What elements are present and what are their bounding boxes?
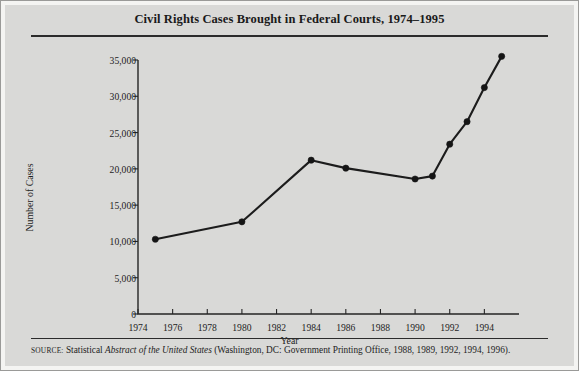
- y-tick-label: 20,000: [110, 163, 136, 174]
- y-tick-label: 15,000: [110, 200, 136, 211]
- data-point: [412, 176, 418, 182]
- data-point: [239, 219, 245, 225]
- data-point: [152, 236, 158, 242]
- x-tick-label: 1986: [336, 322, 355, 333]
- source-divider: [31, 338, 548, 339]
- y-tick-label: 30,000: [110, 91, 136, 102]
- source-text-trailing: (Washington, DC: Government Printing Off…: [212, 345, 510, 355]
- line-chart-svg: [6, 6, 573, 365]
- y-tick-label: 10,000: [110, 236, 136, 247]
- x-tick-label: 1994: [475, 322, 494, 333]
- data-point: [499, 53, 505, 59]
- x-tick-label: 1988: [371, 322, 390, 333]
- y-axis-title: Number of Cases: [24, 163, 35, 231]
- figure-container: Civil Rights Cases Brought in Federal Co…: [0, 0, 579, 371]
- data-point-markers: [152, 53, 505, 242]
- y-tick-label: 5,000: [114, 272, 136, 283]
- data-point: [464, 119, 470, 125]
- y-tick-label: 25,000: [110, 127, 136, 138]
- figure-inner: Civil Rights Cases Brought in Federal Co…: [6, 6, 573, 365]
- data-point: [429, 173, 435, 179]
- series-line-civil-rights-cases: [155, 56, 501, 239]
- source-publication-title: Abstract of the United States: [105, 345, 212, 355]
- source-note: SOURCE: Statistical Abstract of the Unit…: [31, 345, 556, 357]
- axis-ticks: [133, 60, 484, 314]
- source-text-leading: Statistical: [64, 345, 105, 355]
- data-point: [481, 84, 487, 90]
- data-point: [343, 165, 349, 171]
- y-tick-label: 0: [131, 309, 136, 320]
- x-tick-label: 1984: [302, 322, 321, 333]
- x-tick-label: 1978: [198, 322, 217, 333]
- plot-area: 05,00010,00015,00020,00025,00030,00035,0…: [6, 6, 573, 365]
- x-tick-label: 1974: [128, 322, 147, 333]
- data-point: [447, 141, 453, 147]
- axis-lines: [138, 60, 519, 314]
- x-tick-label: 1976: [163, 322, 182, 333]
- y-tick-label: 35,000: [110, 55, 136, 66]
- data-point: [308, 157, 314, 163]
- x-tick-label: 1992: [440, 322, 459, 333]
- x-tick-label: 1990: [405, 322, 424, 333]
- source-label: SOURCE:: [31, 346, 64, 355]
- x-tick-label: 1982: [267, 322, 286, 333]
- x-tick-label: 1980: [232, 322, 251, 333]
